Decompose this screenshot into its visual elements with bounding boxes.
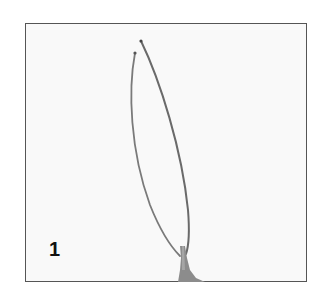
panel-label: 1	[49, 238, 60, 261]
right-wire	[141, 41, 189, 254]
left-wire	[131, 53, 180, 256]
left-wire-tip	[133, 51, 136, 54]
right-wire-tip	[139, 39, 142, 42]
